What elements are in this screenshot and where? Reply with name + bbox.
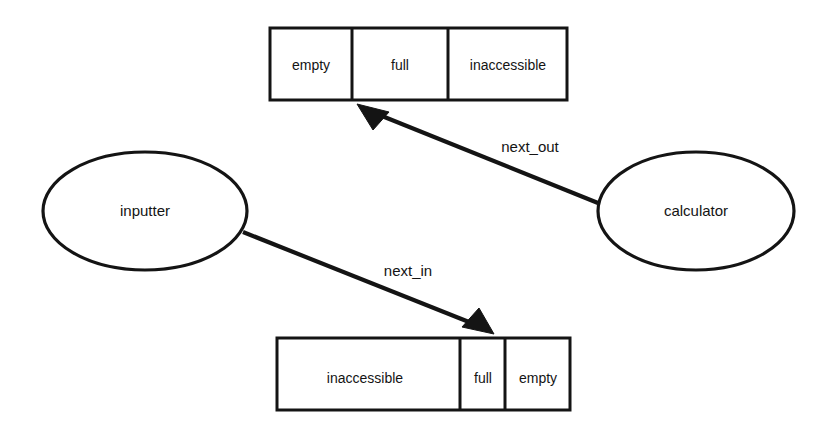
edge-next-in-line [243, 232, 479, 326]
diagram-svg: empty full inaccessible inaccessible ful… [0, 0, 834, 441]
node-inputter-label: inputter [120, 202, 170, 219]
buffer-input: inaccessible full empty [277, 338, 570, 410]
diagram-canvas: empty full inaccessible inaccessible ful… [0, 0, 834, 441]
edge-next-out: next_out [357, 104, 598, 203]
buffer-output: empty full inaccessible [270, 28, 567, 100]
buffer-input-label-full: full [474, 370, 492, 386]
buffer-output-label-empty: empty [292, 57, 330, 73]
edge-next-out-arrowhead [357, 104, 389, 130]
edge-next-out-line [372, 112, 598, 203]
edge-next-out-label: next_out [501, 138, 559, 155]
buffer-output-label-inaccessible: inaccessible [470, 57, 546, 73]
node-inputter[interactable]: inputter [43, 152, 247, 270]
edge-next-in-label: next_in [384, 262, 432, 279]
node-calculator[interactable]: calculator [598, 152, 794, 270]
buffer-input-label-empty: empty [519, 370, 557, 386]
buffer-input-label-inaccessible: inaccessible [327, 370, 403, 386]
edge-next-in-arrowhead [462, 308, 494, 334]
buffer-output-label-full: full [391, 57, 409, 73]
edge-next-in: next_in [243, 232, 494, 334]
node-calculator-label: calculator [664, 202, 728, 219]
